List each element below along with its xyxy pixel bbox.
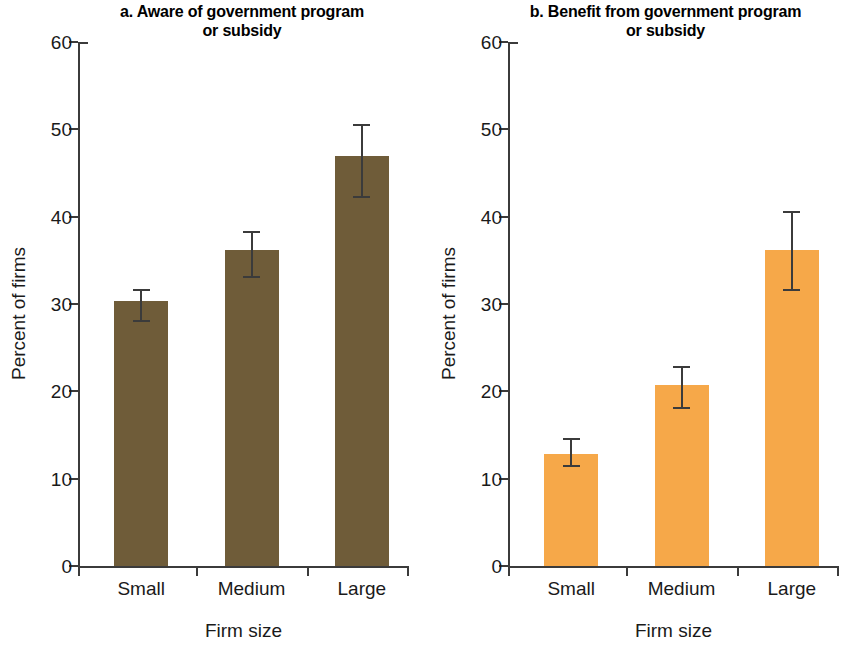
- x-axis-start-cap: [78, 566, 80, 576]
- error-bar-large: [361, 125, 363, 197]
- bar-medium: [655, 385, 709, 566]
- y-axis-top-cap: [508, 42, 518, 44]
- y-axis-tick-label: 40: [51, 207, 72, 226]
- error-cap-large-upper: [783, 211, 800, 213]
- x-axis-title: Firm size: [508, 620, 839, 642]
- figure-two-panel-bar-charts: a. Aware of government program or subsid…: [0, 0, 861, 647]
- x-axis-line: [78, 566, 409, 568]
- error-cap-large-upper: [353, 124, 370, 126]
- panel-b-title: b. Benefit from government program or su…: [470, 2, 861, 40]
- error-cap-medium-upper: [243, 231, 260, 233]
- panel-a-title-line2: or subsidy: [203, 22, 282, 39]
- y-axis-title: Percent of firms: [9, 214, 28, 414]
- error-bar-medium: [681, 367, 683, 408]
- x-axis-category-label-small: Small: [117, 578, 165, 600]
- y-axis-line: [78, 42, 80, 566]
- x-axis-category-label-large: Large: [768, 578, 817, 600]
- error-cap-small-upper: [133, 289, 150, 291]
- x-axis-category-label-medium: Medium: [218, 578, 286, 600]
- error-cap-large-lower: [783, 289, 800, 291]
- error-cap-small-lower: [563, 465, 580, 467]
- panel-a-title-line1: a. Aware of government program: [120, 3, 364, 20]
- y-axis-tick-label: 40: [481, 207, 502, 226]
- error-bar-small: [140, 290, 142, 321]
- error-bar-large: [791, 212, 793, 290]
- bar-small: [114, 301, 168, 566]
- bar-medium: [225, 250, 279, 566]
- x-axis-end-cap: [407, 566, 409, 576]
- x-axis-end-cap: [837, 566, 839, 576]
- bar-small: [544, 454, 598, 566]
- error-cap-medium-lower: [243, 276, 260, 278]
- y-axis-tick-label: 20: [481, 382, 502, 401]
- plot-area-a: 0102030405060SmallMediumLargeFirm sizePe…: [78, 42, 408, 566]
- error-cap-large-lower: [353, 196, 370, 198]
- error-bar-small: [570, 439, 572, 466]
- y-axis-line: [508, 42, 510, 566]
- error-cap-small-upper: [563, 438, 580, 440]
- bar-large: [765, 250, 819, 566]
- y-axis-tick-label: 10: [51, 469, 72, 488]
- y-axis-tick-label: 20: [51, 382, 72, 401]
- panel-b-title-line1: b. Benefit from government program: [530, 3, 801, 20]
- x-axis-tick: [307, 566, 309, 576]
- panel-a-title: a. Aware of government program or subsid…: [60, 2, 424, 40]
- x-axis-category-label-large: Large: [338, 578, 387, 600]
- x-axis-tick: [626, 566, 628, 576]
- panel-b-title-line2: or subsidy: [626, 22, 705, 39]
- panel-b: b. Benefit from government program or su…: [430, 0, 861, 647]
- y-axis-tick-label: 30: [481, 295, 502, 314]
- plot-area-b: 0102030405060SmallMediumLargeFirm sizePe…: [508, 42, 838, 566]
- y-axis-tick-label: 60: [51, 33, 72, 52]
- y-axis-tick-label: 0: [61, 557, 72, 576]
- y-axis-tick-label: 50: [51, 120, 72, 139]
- y-axis-tick-label: 60: [481, 33, 502, 52]
- y-axis-tick-label: 10: [481, 469, 502, 488]
- error-cap-medium-upper: [673, 366, 690, 368]
- y-axis-title: Percent of firms: [439, 214, 458, 414]
- y-axis-tick-label: 0: [491, 557, 502, 576]
- x-axis-tick: [737, 566, 739, 576]
- error-cap-medium-lower: [673, 407, 690, 409]
- y-axis-tick-label: 50: [481, 120, 502, 139]
- x-axis-category-label-small: Small: [547, 578, 595, 600]
- x-axis-title: Firm size: [78, 620, 409, 642]
- x-axis-start-cap: [508, 566, 510, 576]
- y-axis-tick-label: 30: [51, 295, 72, 314]
- x-axis-category-label-medium: Medium: [648, 578, 716, 600]
- panel-a: a. Aware of government program or subsid…: [0, 0, 430, 647]
- y-axis-top-cap: [78, 42, 88, 44]
- error-cap-small-lower: [133, 320, 150, 322]
- x-axis-tick: [196, 566, 198, 576]
- error-bar-medium: [251, 232, 253, 277]
- x-axis-line: [508, 566, 839, 568]
- bar-large: [335, 156, 389, 566]
